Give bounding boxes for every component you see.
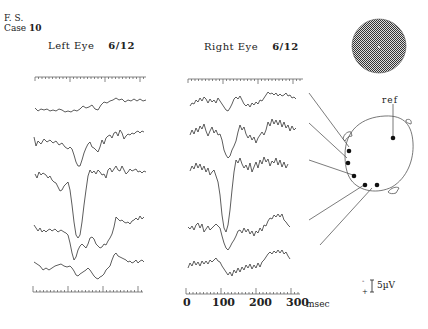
left-trace-2 (34, 130, 144, 166)
electrode-2 (346, 161, 351, 166)
x-tick-100: 100 (212, 297, 235, 308)
electrode-4 (363, 183, 368, 188)
electrode-3 (352, 174, 357, 179)
calibration-minus: - (362, 278, 364, 285)
x-tick-200: 200 (249, 297, 272, 308)
checkerboard-stimulus-icon (352, 19, 406, 73)
x-tick-0: 0 (183, 297, 191, 308)
vep-figure: F. S. Case 10 Left Eye6/12 Right Eye6/12 (0, 0, 428, 329)
left-trace-4 (34, 216, 144, 260)
electrode-leader-lines (309, 93, 372, 245)
x-axis-unit: msec (306, 300, 330, 309)
calibration-plus: + (362, 289, 368, 296)
electrode-ref (391, 136, 396, 141)
head-diagram (343, 104, 413, 194)
calibration-value: 5µV (377, 281, 395, 290)
left-trace-3 (35, 166, 146, 238)
right-top-ruler (188, 79, 303, 84)
right-trace-5 (188, 250, 290, 276)
left-bottom-ruler (33, 286, 143, 292)
calibration-bar (370, 280, 374, 292)
left-trace-5 (34, 253, 144, 279)
electrode-1 (347, 149, 352, 154)
right-trace-2 (190, 119, 296, 158)
left-eye-traces (34, 98, 146, 279)
left-top-ruler (35, 77, 146, 82)
right-trace-3 (190, 157, 288, 232)
electrode-5 (375, 183, 380, 188)
reference-label: ref (382, 96, 398, 105)
right-trace-1 (190, 92, 296, 111)
right-bottom-ruler (186, 288, 300, 294)
right-trace-4 (188, 214, 290, 250)
left-trace-1 (35, 98, 146, 112)
right-eye-traces (188, 92, 296, 276)
